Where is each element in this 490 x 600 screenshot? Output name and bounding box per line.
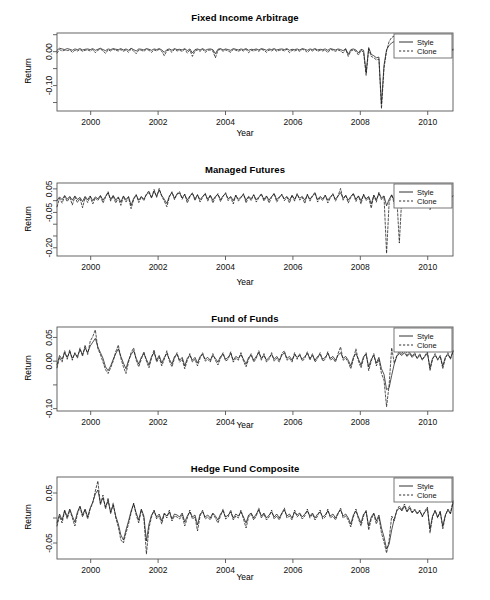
y-tick-label: 0.00: [44, 353, 54, 370]
x-tick-label: 2004: [216, 262, 235, 272]
y-axis-title: Return: [23, 338, 33, 398]
x-tick-label: 2010: [418, 117, 437, 127]
legend: StyleClone: [394, 184, 452, 208]
x-axis-title: Year: [0, 277, 490, 287]
x-tick-label: 2002: [149, 117, 168, 127]
chart-panel: Fund of Funds2000200220042006200820100.0…: [0, 300, 490, 450]
chart-panel: Hedge Fund Composite20002002200420062008…: [0, 450, 490, 600]
legend-label-style: Style: [417, 332, 434, 341]
legend-label-clone: Clone: [417, 491, 437, 500]
x-tick-label: 2002: [149, 262, 168, 272]
y-tick-label: 0.05: [44, 484, 54, 501]
x-tick-label: 2008: [351, 262, 370, 272]
y-tick-label: -0.20: [44, 238, 54, 258]
legend-label-clone: Clone: [417, 47, 437, 56]
legend: StyleClone: [394, 328, 452, 352]
y-axis-title: Return: [23, 41, 33, 101]
y-tick-label: -0.05: [44, 202, 54, 222]
chart-panel: Managed Futures2000200220042006200820100…: [0, 150, 490, 300]
y-tick-label: -0.10: [44, 76, 54, 96]
legend-label-clone: Clone: [417, 197, 437, 206]
y-axis-title: Return: [23, 189, 33, 249]
x-tick-label: 2000: [81, 262, 100, 272]
y-tick-label: 0.00: [44, 43, 54, 60]
legend-label-style: Style: [417, 188, 434, 197]
x-tick-label: 2000: [81, 117, 100, 127]
y-tick-label: 0.05: [44, 180, 54, 197]
x-axis-title: Year: [0, 128, 490, 138]
legend-label-style: Style: [417, 38, 434, 47]
y-axis-title: Return: [23, 487, 33, 547]
legend: StyleClone: [394, 478, 452, 502]
legend-label-clone: Clone: [417, 341, 437, 350]
legend: StyleClone: [394, 34, 452, 58]
y-tick-label: -0.10: [44, 399, 54, 419]
y-tick-label: -0.05: [44, 533, 54, 553]
chart-panel: Fixed Income Arbitrage200020022004200620…: [0, 0, 490, 150]
legend-label-style: Style: [417, 482, 434, 491]
x-tick-label: 2006: [283, 117, 302, 127]
x-tick-label: 2010: [418, 262, 437, 272]
x-tick-label: 2008: [351, 117, 370, 127]
y-tick-label: 0.05: [44, 329, 54, 346]
x-axis-title: Year: [0, 420, 490, 430]
x-tick-label: 2006: [283, 262, 302, 272]
x-axis-title: Year: [0, 572, 490, 582]
x-tick-label: 2004: [216, 117, 235, 127]
figure-root: Fixed Income Arbitrage200020022004200620…: [0, 0, 490, 600]
